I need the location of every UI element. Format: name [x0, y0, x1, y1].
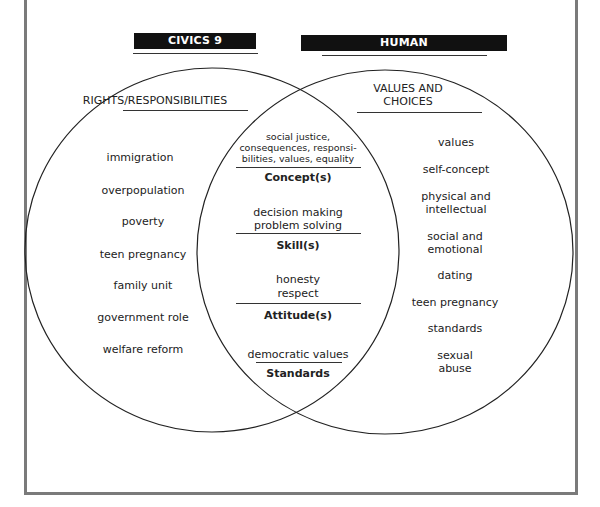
right-item: dating	[437, 269, 472, 282]
left-title-underline	[123, 110, 248, 111]
left-circle-title: RIGHTS/RESPONSIBILITIES	[83, 94, 227, 107]
skill-line: decision making	[253, 206, 343, 219]
skill-divider	[236, 233, 361, 234]
right-item: intellectual	[425, 203, 486, 216]
right-item: sexual	[437, 349, 473, 362]
header-civics-underline	[133, 53, 258, 54]
concept-line: bilities, values, equality	[242, 153, 354, 164]
skills-label: Skill(s)	[276, 239, 319, 252]
left-item: teen pregnancy	[100, 248, 187, 261]
concept-line: social justice,	[266, 131, 330, 142]
attitude-divider	[236, 303, 361, 304]
right-item: values	[438, 136, 474, 149]
left-item: poverty	[122, 215, 164, 228]
header-human-growth-underline	[322, 55, 487, 56]
right-item: social and	[427, 230, 483, 243]
attitude-line: honesty	[276, 273, 320, 286]
concept-line: consequences, responsi-	[239, 142, 356, 153]
header-civics: CIVICS 9	[134, 33, 256, 49]
skill-line: problem solving	[254, 219, 342, 232]
left-circle	[25, 68, 399, 432]
left-item: family unit	[114, 279, 173, 292]
concepts-label: Concept(s)	[264, 171, 331, 184]
concept-divider	[236, 167, 361, 168]
right-item: emotional	[427, 243, 482, 256]
header-human-growth: HUMAN GROWTH/DEVELOPMENT	[301, 35, 507, 51]
right-title-underline	[357, 112, 482, 113]
standards-divider	[256, 362, 342, 363]
attitudes-label: Attitude(s)	[264, 309, 332, 322]
left-item: government role	[97, 311, 188, 324]
right-circle-title: VALUES AND	[373, 82, 443, 95]
left-item: welfare reform	[103, 343, 184, 356]
standards-label: Standards	[266, 367, 330, 380]
right-circle	[197, 70, 573, 434]
right-item: physical and	[421, 190, 490, 203]
left-item: overpopulation	[101, 184, 184, 197]
left-item: immigration	[107, 151, 174, 164]
right-circle-title: CHOICES	[383, 95, 432, 108]
right-item: teen pregnancy	[412, 296, 499, 309]
right-item: abuse	[438, 362, 471, 375]
standard-line: democratic values	[247, 348, 348, 361]
venn-circles	[0, 0, 600, 507]
attitude-line: respect	[278, 287, 319, 300]
right-item: self-concept	[423, 163, 490, 176]
right-item: standards	[428, 322, 483, 335]
